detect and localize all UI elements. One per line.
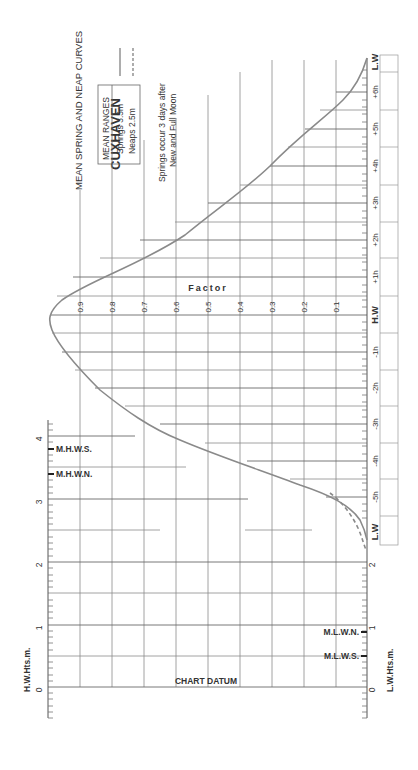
- svg-text:0.4: 0.4: [236, 301, 245, 313]
- legend-header: MEAN RANGES: [101, 97, 111, 160]
- mlws-label: M.L.W.S.: [324, 651, 359, 661]
- svg-text:-4h: -4h: [371, 455, 380, 467]
- svg-text:4: 4: [34, 436, 44, 441]
- springs-note-line1: Springs occur 3 days after: [157, 83, 167, 182]
- hw-height-axis: 0 1 2 3 4 H.W.Hts.m. M.H.W.S. M.H.W.N.: [22, 420, 92, 718]
- factor-ticks: 0.9 0.8 0.7 0.6 0.5 0.4 0.3 0.2 0.1: [76, 301, 341, 313]
- svg-text:+1h: +1h: [371, 270, 380, 284]
- subtitle: MEAN SPRING AND NEAP CURVES: [73, 31, 84, 190]
- time-axis: L.W +6h +5h +4h +3h +2h +1h H.W -1h -2h …: [324, 53, 395, 718]
- time-hw: H.W: [370, 306, 380, 324]
- svg-text:-1h: -1h: [371, 346, 380, 358]
- mlwn-label: M.L.W.N.: [324, 627, 359, 637]
- springs-note-line2: New and Full Moon: [168, 93, 178, 167]
- svg-text:2: 2: [34, 562, 44, 567]
- svg-text:0: 0: [34, 687, 44, 692]
- factor-label: Factor: [188, 283, 228, 293]
- svg-text:0.3: 0.3: [268, 301, 277, 313]
- time-lw-top: L.W: [370, 53, 380, 70]
- svg-text:0.9: 0.9: [76, 301, 85, 313]
- svg-text:-5h: -5h: [371, 491, 380, 503]
- svg-text:0: 0: [367, 687, 377, 692]
- chart-datum-label: CHART DATUM: [175, 676, 237, 686]
- svg-text:0.6: 0.6: [172, 301, 181, 313]
- tidal-curve-diagram: CUXHAVEN MEAN SPRING AND NEAP CURVES MEA…: [0, 0, 418, 770]
- svg-text:0.2: 0.2: [300, 301, 309, 313]
- legend-neaps: Neaps 2.5m: [127, 108, 137, 154]
- svg-text:-2h: -2h: [371, 382, 380, 394]
- time-boxes: [380, 55, 398, 545]
- svg-text:+3h: +3h: [371, 196, 380, 210]
- legend-springs: Springs 3.3m: [115, 104, 125, 154]
- mhws-label: M.H.W.S.: [56, 444, 92, 454]
- svg-text:+5h: +5h: [371, 122, 380, 136]
- height-grid: [48, 436, 367, 687]
- hw-axis-label: H.W.Hts.m.: [22, 648, 32, 692]
- lw-axis-label: L.W.Hts.m.: [385, 649, 395, 692]
- svg-text:1: 1: [367, 625, 377, 630]
- svg-text:+4h: +4h: [371, 159, 380, 173]
- svg-text:+2h: +2h: [371, 233, 380, 247]
- time-lw-bottom: L.W: [370, 523, 380, 540]
- svg-text:0.1: 0.1: [332, 301, 341, 313]
- svg-text:0.5: 0.5: [204, 301, 213, 313]
- svg-text:+6h: +6h: [371, 85, 380, 99]
- svg-text:1: 1: [34, 625, 44, 630]
- legend: MEAN RANGES Springs 3.3m Neaps 2.5m: [98, 48, 140, 164]
- svg-text:-3h: -3h: [371, 418, 380, 430]
- mhwn-label: M.H.W.N.: [56, 469, 92, 479]
- svg-text:0.7: 0.7: [140, 301, 149, 313]
- svg-text:0.8: 0.8: [108, 301, 117, 313]
- svg-text:2: 2: [367, 562, 377, 567]
- svg-text:3: 3: [34, 499, 44, 504]
